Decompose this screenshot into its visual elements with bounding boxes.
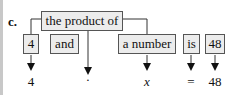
symbol-48: 48 xyxy=(205,74,225,90)
phrase-box-a-number: a number xyxy=(118,34,176,54)
symbol-x: x xyxy=(139,74,155,90)
symbol-equals: = xyxy=(183,74,199,90)
symbol-times: · xyxy=(80,72,96,88)
phrase-box-48: 48 xyxy=(205,34,225,54)
phrase-box-is: is xyxy=(183,34,200,54)
phrase-box-4: 4 xyxy=(23,34,39,54)
phrase-box-product: the product of xyxy=(41,11,123,31)
symbol-4: 4 xyxy=(23,74,39,90)
phrase-box-and: and xyxy=(50,34,79,54)
